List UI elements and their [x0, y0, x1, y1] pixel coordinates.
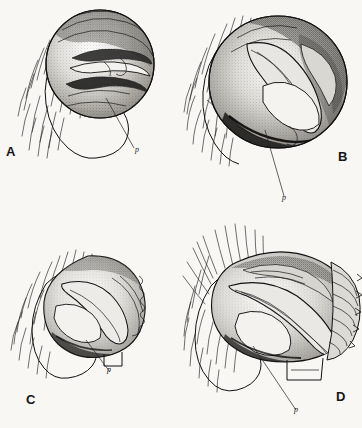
figure-panel-a: A p	[0, 0, 181, 214]
palpal-bulb-d	[203, 242, 362, 380]
leader-label-a: p	[135, 146, 139, 154]
palpal-bulb-a	[40, 0, 170, 120]
panel-b-illustration	[181, 0, 362, 214]
panel-d-illustration	[181, 214, 362, 428]
panel-a-illustration	[0, 0, 181, 214]
panel-letter-d: D	[336, 390, 346, 403]
panel-letter-a: A	[6, 145, 16, 158]
figure-panel-d: D p	[181, 214, 362, 428]
leader-label-c: p	[107, 366, 111, 374]
leader-label-d: p	[294, 406, 298, 414]
panel-letter-b: B	[338, 150, 348, 163]
taxonomic-plate: A p	[0, 0, 362, 428]
figure-panel-c: C p	[0, 214, 181, 428]
figure-panel-b: B p	[181, 0, 362, 214]
panel-letter-c: C	[26, 393, 36, 406]
palpal-bulb-c	[40, 250, 156, 366]
palpal-bulb-b	[209, 14, 349, 152]
leader-label-b: p	[282, 194, 286, 202]
